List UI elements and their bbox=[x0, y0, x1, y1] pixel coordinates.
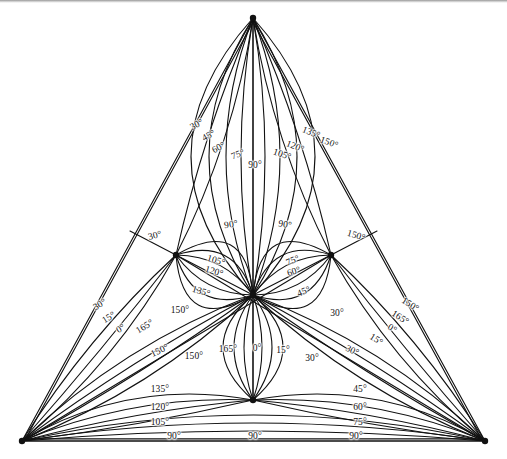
angle-curve bbox=[191, 18, 253, 295]
angle-curve bbox=[253, 250, 331, 295]
node-right-midpoint bbox=[328, 252, 334, 258]
angle-curve bbox=[253, 295, 485, 441]
node-left-midpoint bbox=[173, 252, 179, 258]
angle-curve bbox=[253, 18, 265, 295]
angle-curve bbox=[22, 431, 485, 441]
angle-curve bbox=[22, 295, 253, 441]
angle-curve bbox=[22, 255, 331, 441]
angle-curve bbox=[176, 255, 485, 441]
angle-field-plot bbox=[0, 0, 507, 459]
angle-curve bbox=[253, 18, 315, 295]
angle-curve bbox=[22, 295, 253, 441]
angle-curve bbox=[253, 295, 262, 400]
node-bottom-midpoint bbox=[250, 397, 256, 403]
figure-root: 30°45°60°75°90°105°120°135°150°30°150°90… bbox=[0, 0, 507, 459]
node-bottom-left-corner bbox=[19, 438, 25, 444]
angle-curve bbox=[22, 423, 485, 441]
angle-curve bbox=[22, 415, 485, 441]
angle-curve bbox=[244, 295, 253, 400]
angle-curve bbox=[253, 295, 485, 441]
angle-curve bbox=[253, 295, 485, 441]
angle-curve bbox=[22, 295, 253, 441]
curves-layer bbox=[22, 18, 485, 441]
node-apex bbox=[250, 15, 256, 21]
node-bottom-right-corner bbox=[482, 438, 488, 444]
angle-curve bbox=[241, 18, 253, 295]
angle-curve bbox=[176, 250, 253, 295]
angle-curve bbox=[253, 295, 485, 441]
node-centroid bbox=[250, 292, 256, 298]
angle-curve bbox=[22, 295, 253, 441]
